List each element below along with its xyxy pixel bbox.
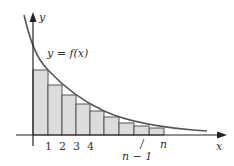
tick-label-4: 4 xyxy=(87,140,94,153)
x-axis-arrow-icon xyxy=(217,132,227,139)
tick-label-3: 3 xyxy=(73,140,80,153)
rectangle-5 xyxy=(90,111,104,135)
x-axis-label: x xyxy=(216,140,223,153)
tick-label-1: 1 xyxy=(45,140,52,153)
y-axis-label: y xyxy=(38,11,46,24)
rectangle-3 xyxy=(62,95,76,135)
rectangle-2 xyxy=(48,85,62,135)
curve-label: y = f(x) xyxy=(46,47,88,60)
y-axis-arrow-icon xyxy=(30,12,37,22)
rectangles xyxy=(33,70,164,135)
rectangle-6 xyxy=(104,117,119,135)
tick-label-2: 2 xyxy=(59,140,66,153)
tick-pointer-n-1 xyxy=(140,139,144,149)
rectangle-n-1 xyxy=(134,126,149,135)
rectangle-4 xyxy=(76,104,90,135)
rectangle-1 xyxy=(33,70,48,135)
rectangle-7 xyxy=(119,123,134,135)
tick-label-n: n xyxy=(160,138,167,151)
rectangle-8 xyxy=(149,128,164,135)
riemann-sum-diagram: y x y = f(x) 1 2 3 4 n − 1 n xyxy=(0,0,234,166)
tick-label-n-1: n − 1 xyxy=(122,150,152,163)
